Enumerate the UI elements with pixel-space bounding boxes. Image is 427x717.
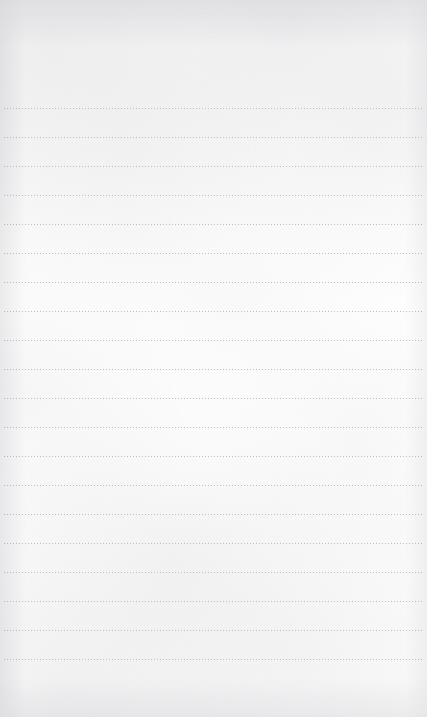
notepad-paper-sheet: Blank Lined Notepad — [0, 0, 427, 717]
note-writing-surface[interactable] — [0, 0, 427, 717]
